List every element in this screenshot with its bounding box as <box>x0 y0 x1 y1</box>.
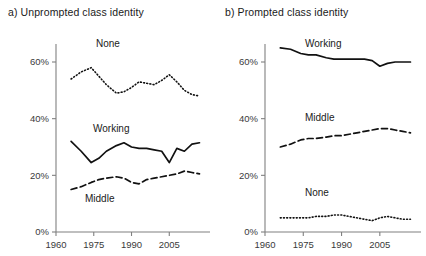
series-line-none <box>280 215 410 221</box>
series-line-middle <box>280 129 410 147</box>
figure-two-panel-line-charts: a) Unprompted class identity 0%20%40%60%… <box>0 0 426 256</box>
y-tick-label: 20% <box>239 170 259 181</box>
y-tick-label: 40% <box>30 113 50 124</box>
y-tick-label: 20% <box>30 170 50 181</box>
series-label-middle: Middle <box>85 193 115 204</box>
x-tick-label: 1990 <box>331 239 352 250</box>
series-label-none: None <box>96 38 120 49</box>
panel-b-plot: 0%20%40%60%1960197519902005WorkingMiddle… <box>213 0 426 256</box>
series-line-middle <box>71 171 199 189</box>
x-tick-label: 1960 <box>45 239 66 250</box>
series-line-working <box>71 141 199 162</box>
panel-a-plot: 0%20%40%60%1960197519902005NoneWorkingMi… <box>0 0 213 256</box>
series-label-none: None <box>305 187 329 198</box>
series-line-none <box>71 68 199 96</box>
series-line-working <box>280 48 410 66</box>
x-tick-label: 2005 <box>369 239 390 250</box>
panel-prompted-class-identity: b) Prompted class identity 0%20%40%60%19… <box>213 0 426 256</box>
x-tick-label: 2005 <box>159 239 180 250</box>
y-tick-label: 60% <box>30 56 50 67</box>
x-tick-label: 1975 <box>83 239 104 250</box>
series-label-working: Working <box>305 38 342 49</box>
x-tick-label: 1960 <box>254 239 275 250</box>
panel-unprompted-class-identity: a) Unprompted class identity 0%20%40%60%… <box>0 0 213 256</box>
y-tick-label: 40% <box>239 113 259 124</box>
y-tick-label: 0% <box>244 226 258 237</box>
y-tick-label: 60% <box>239 56 259 67</box>
x-tick-label: 1975 <box>293 239 314 250</box>
x-tick-label: 1990 <box>121 239 142 250</box>
series-label-middle: Middle <box>305 112 335 123</box>
series-label-working: Working <box>93 123 130 134</box>
y-tick-label: 0% <box>35 226 49 237</box>
